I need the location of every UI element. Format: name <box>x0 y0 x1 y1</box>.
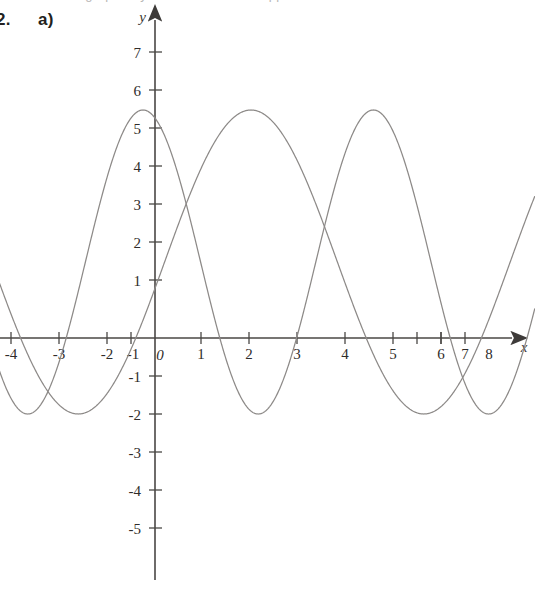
figure-root: the graph of y = ... sinusoidal ... appr… <box>0 0 535 592</box>
y-tick-label: -2 <box>129 407 142 423</box>
x-tick-label: 5 <box>389 346 397 362</box>
x-tick-labels: -4 -3 -2 -1 0 1 2 3 4 5 6 7 8 <box>5 346 493 363</box>
x-tick-label: -2 <box>101 346 114 362</box>
sinusoid-curve-1 <box>0 110 535 414</box>
y-tick-label: 5 <box>134 121 142 137</box>
curves-group <box>0 110 535 414</box>
y-tick-label: 2 <box>134 235 142 251</box>
y-tick-label: -1 <box>129 369 142 385</box>
y-tick-label: -3 <box>129 445 142 461</box>
x-tick-label: 1 <box>197 346 205 362</box>
y-tick-label: -5 <box>129 521 142 537</box>
x-tick-label-zero: 0 <box>156 347 164 363</box>
x-tick-label: 2 <box>245 346 253 362</box>
y-tick-label: 4 <box>134 159 142 175</box>
sinusoid-curve-2 <box>0 110 535 414</box>
x-tick-label: 4 <box>341 346 349 362</box>
x-tick-label: 8 <box>485 346 493 362</box>
x-tick-label: -4 <box>5 346 18 362</box>
x-tick-label: 6 <box>437 346 445 362</box>
y-tick-label: 6 <box>134 83 142 99</box>
y-axis-label: y <box>137 9 146 25</box>
y-tick-label: 1 <box>134 273 142 289</box>
x-tick-label: 7 <box>461 346 469 362</box>
x-tick-label: 3 <box>293 346 301 362</box>
graph-plot: -4 -3 -2 -1 0 1 2 3 4 5 6 7 8 7 6 5 4 3 … <box>0 0 535 592</box>
axes-group <box>0 20 512 580</box>
y-tick-label: 3 <box>134 197 142 213</box>
y-tick-label: 7 <box>134 45 142 61</box>
y-tick-label: -4 <box>129 483 142 499</box>
